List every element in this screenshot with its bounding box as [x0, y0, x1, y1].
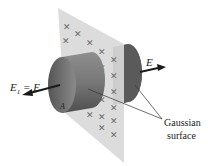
svg-text:✕: ✕	[86, 110, 94, 120]
right-cylinder-end	[124, 44, 142, 103]
left-cylinder	[48, 52, 105, 113]
svg-text:✕: ✕	[62, 36, 70, 46]
svg-text:✕: ✕	[98, 123, 106, 133]
svg-text:✕: ✕	[110, 87, 118, 97]
svg-text:✕: ✕	[110, 103, 118, 113]
gaussian-label-line1: Gaussian	[164, 117, 201, 128]
svg-text:✕: ✕	[74, 29, 82, 39]
svg-text:✕: ✕	[98, 112, 106, 122]
right-field-arrow	[140, 64, 166, 72]
gaussian-label-line2: surface	[167, 130, 196, 141]
svg-text:✕: ✕	[110, 71, 118, 81]
svg-text:✕: ✕	[110, 130, 118, 140]
svg-text:✕: ✕	[63, 22, 71, 32]
area-label: A	[59, 102, 65, 111]
svg-text:✕: ✕	[86, 38, 94, 48]
svg-text:✕: ✕	[110, 116, 118, 126]
gaussian-diagram: ✕ ✕ ✕ ✕ ✕ ✕ ✕ ✕ ✕ ✕ ✕ ✕ ✕ ✕ ✕ ✕ ✕ E1 = E	[0, 0, 217, 166]
svg-text:✕: ✕	[98, 47, 106, 57]
right-field-label: E	[145, 56, 153, 68]
svg-text:✕: ✕	[110, 55, 118, 65]
